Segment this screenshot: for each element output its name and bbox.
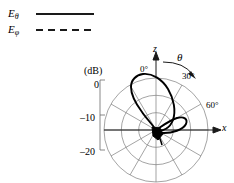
angle-tick-0deg: 0° [140,65,148,74]
spoke-300 [111,104,156,130]
radial-tick-0: 0 [94,80,99,90]
x-axis-label: x [222,123,226,133]
polar-plot-svg [0,0,234,183]
spoke-330 [130,85,156,130]
angle-tick-30deg: 30° [182,72,195,81]
spoke-240 [111,130,156,156]
radiation-pattern-figure: Eθ Eφ [0,0,234,183]
radial-tick-minus20: –20 [80,147,95,157]
z-axis-label: z [153,44,157,54]
z-axis-arrow [153,52,159,76]
radial-tick-minus10: –10 [80,113,95,123]
theta-angle-label: θ [177,52,182,63]
db-scale-axis [100,80,105,150]
angle-tick-60deg: 60° [206,101,219,110]
db-unit-label: (dB) [84,66,102,76]
spoke-210 [130,130,156,175]
